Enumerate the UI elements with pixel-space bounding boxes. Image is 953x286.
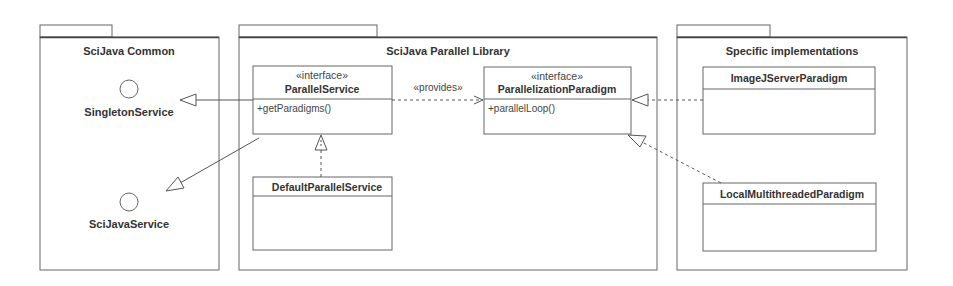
class-name: ParallelService — [285, 83, 360, 95]
class-imagej-server-paradigm: ImageJServerParadigm — [703, 67, 875, 134]
class-parallelization-paradigm: «interface» ParallelizationParadigm +par… — [484, 67, 631, 134]
class-member: +parallelLoop() — [488, 103, 555, 114]
package-tab — [239, 25, 377, 37]
class-local-multithreaded-paradigm: LocalMultithreadedParadigm — [703, 183, 876, 251]
interface-label-singleton-service: SingletonService — [84, 106, 173, 118]
class-member: +getParadigms() — [257, 103, 331, 114]
class-parallel-service: «interface» ParallelService +getParadigm… — [253, 66, 392, 134]
package-tab — [677, 25, 770, 37]
uml-diagram: SciJava Common SingletonService SciJavaS… — [0, 0, 953, 286]
edge-label-provides: «provides» — [414, 82, 463, 93]
class-name: LocalMultithreadedParadigm — [720, 188, 864, 200]
package-title: SciJava Parallel Library — [386, 45, 510, 57]
class-name: DefaultParallelService — [272, 181, 382, 193]
class-stereotype: «interface» — [296, 69, 348, 81]
package-title: SciJava Common — [83, 45, 175, 57]
package-tab — [40, 25, 112, 37]
interface-lollipop-icon — [120, 80, 138, 98]
package-specific-implementations: Specific implementations ImageJServerPar… — [677, 25, 907, 270]
package-body — [40, 37, 219, 270]
class-default-parallel-service: DefaultParallelService — [253, 177, 392, 250]
package-title: Specific implementations — [726, 45, 859, 57]
package-scijava-parallel-library: SciJava Parallel Library «interface» Par… — [239, 25, 657, 270]
class-name: ImageJServerParadigm — [731, 72, 848, 84]
package-scijava-common: SciJava Common SingletonService SciJavaS… — [40, 25, 219, 270]
class-stereotype: «interface» — [531, 70, 583, 82]
interface-lollipop-icon — [120, 193, 138, 211]
interface-label-scijava-service: SciJavaService — [89, 218, 169, 230]
class-name: ParallelizationParadigm — [498, 83, 616, 95]
